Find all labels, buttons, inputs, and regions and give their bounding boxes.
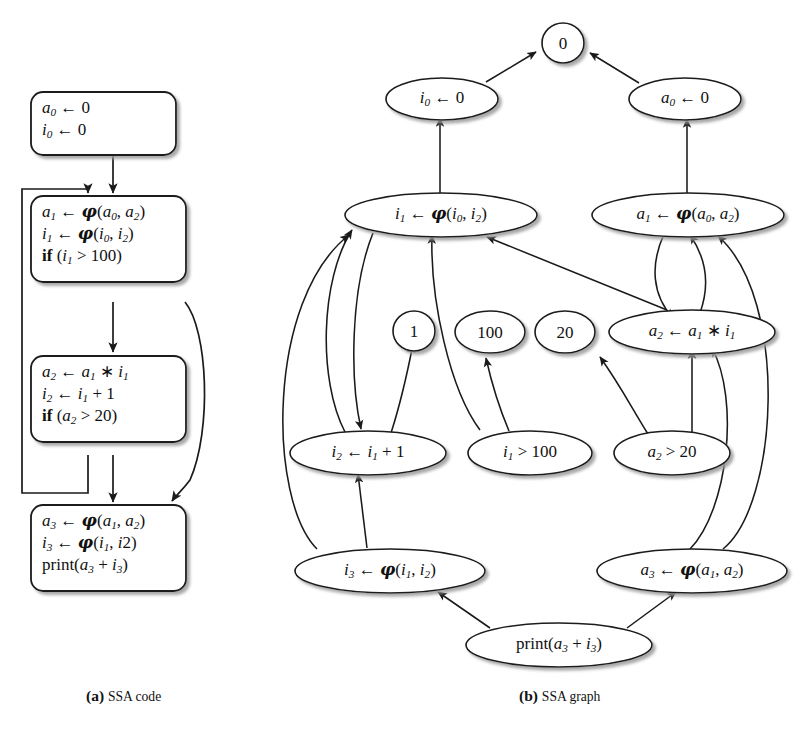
graph-node-i3phi-text: i3 ← φ(i1, i2)	[295, 549, 485, 593]
graph-node-a2cmp-text: a2 > 20	[614, 431, 730, 475]
cfg-block-b2[interactable]: a2 ← a1 ∗ i1i2 ← i1 + 1if (a2 > 20)	[31, 356, 186, 442]
edge-a2cmp-twenty	[600, 357, 648, 434]
edge-a1phi-a2mul	[655, 234, 673, 318]
graph-node-i2add-text: i2 ← i1 + 1	[290, 431, 446, 475]
cfg-block-b2-text: a2 ← a1 ∗ i1i2 ← i1 + 1if (a2 > 20)	[31, 356, 186, 429]
cfg-block-b1[interactable]: a1 ← φ(a0, a2)i1 ← φ(i0, i2)if (i1 > 100…	[31, 196, 186, 282]
graph-node-hund[interactable]: 100	[455, 311, 525, 353]
graph-node-one[interactable]: 1	[387, 311, 441, 351]
graph-node-zero[interactable]: 0	[536, 23, 590, 63]
cfg-block-b0[interactable]: a0 ← 0i0 ← 0	[31, 92, 176, 155]
ssa-figure-svg: a0 ← 0i0 ← 0 a1 ← φ(a0, a2)i1 ← φ(i0, i2…	[0, 0, 805, 737]
edge-i2add-one	[391, 344, 413, 433]
graph-node-a2mul-text: a2 ← a1 ∗ i1	[609, 310, 775, 354]
panel-ssa-graph: 0 i0 ← 0 a0 ← 0	[283, 23, 787, 667]
cfg-block-b1-text: a1 ← φ(a0, a2)i1 ← φ(i0, i2)if (i1 > 100…	[31, 196, 186, 269]
graph-node-i1cmp-text: i1 > 100	[468, 431, 592, 475]
graph-node-one-text: 1	[387, 311, 441, 351]
ssa-graph-nodes: 0 i0 ← 0 a0 ← 0	[290, 23, 787, 667]
graph-node-a1phi[interactable]: a1 ← φ(a0, a2)	[592, 193, 784, 237]
graph-node-a3phi[interactable]: a3 ← φ(a1, a2)	[597, 549, 787, 593]
edge-i3phi-i1phi	[283, 235, 349, 549]
edge-i3phi-i2add	[358, 474, 367, 548]
caption-a-tag: (a)	[86, 687, 104, 704]
edge-a2mul-a1phi	[690, 235, 705, 313]
cfg-block-b3-text: a3 ← φ(a1, a2)i3 ← φ(i1, i2)print(a3 + i…	[31, 505, 186, 578]
graph-node-print-text: print(a3 + i3)	[466, 623, 652, 667]
graph-node-a0-text: a0 ← 0	[629, 78, 741, 120]
graph-node-i0-text: i0 ← 0	[386, 78, 498, 120]
graph-node-i1phi[interactable]: i1 ← φ(i0, i2)	[345, 193, 537, 237]
graph-node-hund-text: 100	[455, 311, 525, 353]
cfg-block-b3[interactable]: a3 ← φ(a1, a2)i3 ← φ(i1, i2)print(a3 + i…	[31, 505, 186, 591]
graph-node-i1phi-text: i1 ← φ(i0, i2)	[345, 193, 537, 237]
graph-node-a2mul[interactable]: a2 ← a1 ∗ i1	[609, 310, 775, 354]
edge-a2mul-i1phi	[487, 237, 667, 310]
edge-i1cmp-hund	[486, 358, 509, 431]
panel-ssa-code: a0 ← 0i0 ← 0 a1 ← φ(a0, a2)i1 ← φ(i0, i2…	[22, 92, 205, 591]
graph-node-a1phi-text: a1 ← φ(a0, a2)	[592, 193, 784, 237]
graph-node-twenty-text: 20	[535, 311, 595, 353]
graph-node-i0[interactable]: i0 ← 0	[386, 78, 498, 120]
caption-panel-b: (b) SSA graph	[519, 687, 600, 705]
graph-node-a0[interactable]: a0 ← 0	[629, 78, 741, 120]
graph-node-zero-text: 0	[536, 23, 590, 63]
edge-i2add-i1phi	[326, 230, 352, 432]
graph-node-i3phi[interactable]: i3 ← φ(i1, i2)	[295, 549, 485, 593]
graph-node-a2cmp[interactable]: a2 > 20	[614, 431, 730, 475]
graph-node-print[interactable]: print(a3 + i3)	[466, 623, 652, 667]
caption-b-tag: (b)	[519, 687, 538, 704]
figure-root: a0 ← 0i0 ← 0 a1 ← φ(a0, a2)i1 ← φ(i0, i2…	[0, 0, 805, 737]
cfg-block-b0-text: a0 ← 0i0 ← 0	[31, 92, 176, 143]
graph-node-i1cmp[interactable]: i1 > 100	[468, 431, 592, 475]
graph-node-a3phi-text: a3 ← φ(a1, a2)	[597, 549, 787, 593]
edge-i1phi-i2add	[354, 233, 373, 429]
caption-panel-a: (a) SSA code	[86, 687, 161, 705]
graph-node-twenty[interactable]: 20	[535, 311, 595, 353]
caption-b-title: SSA graph	[542, 689, 601, 704]
caption-a-title: SSA code	[108, 689, 161, 704]
graph-node-i2add[interactable]: i2 ← i1 + 1	[290, 431, 446, 475]
